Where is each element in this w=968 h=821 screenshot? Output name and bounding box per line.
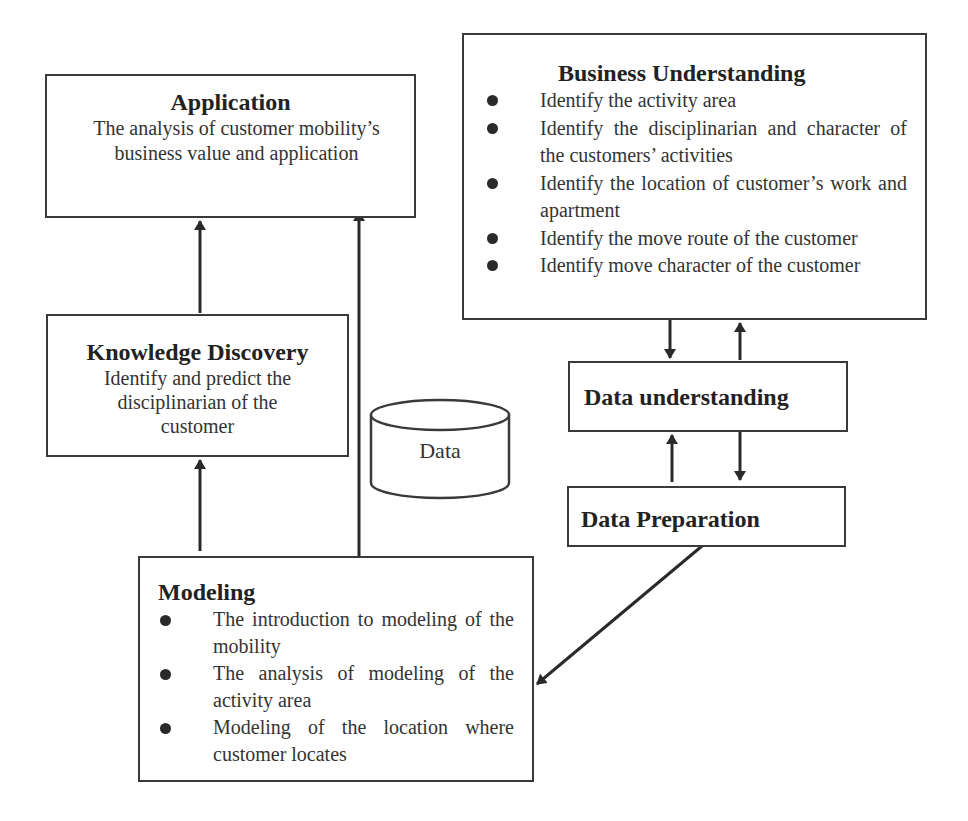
application-box: Application The analysis of customer mob… (45, 74, 416, 218)
application-title: Application (47, 88, 414, 116)
bullet-icon (487, 233, 498, 244)
data-understanding-title: Data understanding (584, 383, 846, 411)
data-preparation-title: Data Preparation (581, 505, 844, 533)
bullet-icon (160, 723, 171, 734)
list-item: The analysis of modeling of the activity… (158, 660, 514, 714)
data-preparation-box: Data Preparation (567, 486, 846, 547)
bullet-icon (160, 615, 171, 626)
bullet-icon (487, 123, 498, 134)
bullet-icon (487, 95, 498, 106)
data-store-cylinder: Data (369, 398, 511, 500)
knowledge-discovery-title: Knowledge Discovery (48, 338, 347, 366)
bullet-icon (487, 260, 498, 271)
list-item: Identify the disciplinarian and characte… (482, 115, 907, 170)
knowledge-discovery-box: Knowledge Discovery Identify and predict… (46, 314, 349, 457)
list-item: Identify the location of customer’s work… (482, 170, 907, 225)
business-understanding-list: Identify the activity area Identify the … (482, 87, 907, 280)
modeling-box: Modeling The introduction to modeling of… (138, 556, 534, 782)
business-understanding-box: Business Understanding Identify the acti… (462, 33, 927, 320)
list-item: Modeling of the location where customer … (158, 714, 514, 768)
modeling-title: Modeling (158, 578, 514, 606)
knowledge-discovery-description: Identify and predict the disciplinarian … (48, 366, 347, 438)
list-item: The introduction to modeling of the mobi… (158, 606, 514, 660)
data-understanding-box: Data understanding (568, 361, 848, 432)
list-item: Identify move character of the customer (482, 252, 907, 280)
modeling-list: The introduction to modeling of the mobi… (158, 606, 514, 768)
arrow-dp-to-modeling (537, 546, 702, 684)
data-store-label: Data (369, 438, 511, 464)
bullet-icon (160, 669, 171, 680)
business-understanding-title: Business Understanding (482, 59, 907, 87)
list-item: Identify the activity area (482, 87, 907, 115)
list-item: Identify the move route of the customer (482, 225, 907, 253)
bullet-icon (487, 178, 498, 189)
application-description: The analysis of customer mobility’s busi… (47, 116, 414, 166)
